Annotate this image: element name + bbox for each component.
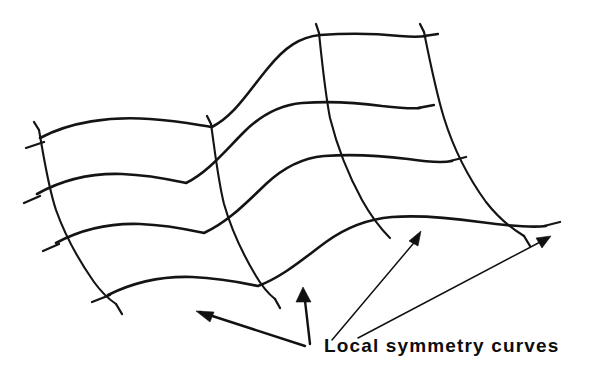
mesh-diagram-svg [0,0,599,378]
figure-canvas: Local symmetry curves [0,0,599,378]
local-symmetry-curves-label: Local symmetry curves [324,336,559,355]
figure-background [0,0,599,378]
